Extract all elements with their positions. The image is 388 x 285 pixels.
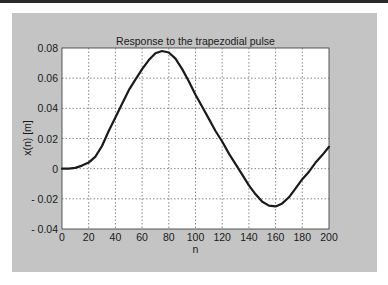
y-axis-label: x(n) [m] bbox=[21, 120, 33, 156]
x-tick-label: 80 bbox=[163, 231, 175, 243]
x-tick-label: 40 bbox=[110, 231, 122, 243]
y-tick-label: 0.08 bbox=[38, 42, 59, 54]
x-tick-label: 60 bbox=[136, 231, 148, 243]
y-tick-label: 0.02 bbox=[38, 133, 59, 145]
x-tick-label: 180 bbox=[294, 231, 312, 243]
y-tick-label: - 0.02 bbox=[31, 193, 58, 205]
y-tick-label: 0.04 bbox=[38, 102, 59, 114]
x-axis-label: n bbox=[193, 243, 199, 255]
chart-title: Response to the trapezodial pulse bbox=[116, 35, 275, 47]
x-tick-label: 100 bbox=[187, 231, 205, 243]
line-chart: Response to the trapezodial pulse 020406… bbox=[0, 0, 388, 285]
y-axis-ticks: - 0.04- 0.0200.020.040.060.08 bbox=[31, 42, 58, 235]
x-tick-label: 0 bbox=[59, 231, 65, 243]
y-tick-label: 0 bbox=[52, 163, 58, 175]
x-tick-label: 20 bbox=[83, 231, 95, 243]
x-tick-label: 200 bbox=[320, 231, 338, 243]
x-tick-label: 140 bbox=[240, 231, 258, 243]
y-tick-label: 0.06 bbox=[38, 72, 59, 84]
x-tick-label: 160 bbox=[267, 231, 285, 243]
x-axis-ticks: 020406080100120140160180200 bbox=[59, 231, 338, 243]
x-tick-label: 120 bbox=[213, 231, 231, 243]
y-tick-label: - 0.04 bbox=[31, 223, 58, 235]
